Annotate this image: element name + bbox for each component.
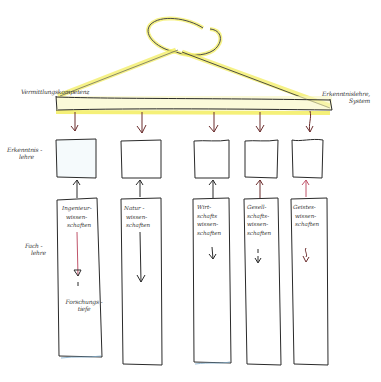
column-text-line: wissen-	[247, 220, 271, 229]
label-fachlehre-line1: Fach -	[25, 242, 46, 249]
arrows-up	[73, 180, 309, 198]
column-text-line: Wirt-	[197, 203, 221, 212]
label-erkenntnislehre-line2: lehre	[7, 153, 42, 160]
column-naturwissenschaften: Natur - wissen- schaften	[124, 204, 150, 230]
column-gesellschaftswissenschaften: Gesell- schafts- wissen- schaften	[247, 203, 271, 237]
column-text-line: schaften	[293, 220, 319, 229]
label-forschungstiefe-line2: tiefe	[62, 305, 106, 312]
label-forschungstiefe: Forschungs - tiefe	[62, 298, 106, 312]
label-erkenntnislehre-line1: Erkenntnis -	[7, 146, 42, 153]
column-text-line: wissen-	[293, 212, 319, 221]
diagram-drawing	[0, 0, 381, 382]
erkenntnislehre-boxes	[56, 139, 323, 178]
fachlehre-columns	[57, 198, 328, 365]
column-text-line: schaften	[197, 229, 221, 238]
column-text-line: Gesell-	[247, 203, 271, 212]
column-text-line: wissen-	[197, 220, 221, 229]
depth-arrows	[74, 232, 309, 286]
column-text-line: schaften	[62, 221, 92, 230]
label-fachlehre-line2: lehre	[25, 249, 46, 256]
column-text-line: Ingenieur-	[62, 204, 92, 213]
column-text-line: wissen-	[62, 213, 92, 222]
column-text-line: Geistes-	[293, 203, 319, 212]
column-text-line: wissen-	[124, 213, 150, 222]
label-vermittlungskompetenz: Vermittlungskompetenz	[21, 88, 89, 95]
label-fachlehre-row: Fach - lehre	[25, 242, 46, 256]
column-geisteswissenschaften: Geistes- wissen- schaften	[293, 203, 319, 229]
column-wirtschaftswissenschaften: Wirt- schafts wissen- schaften	[197, 203, 221, 237]
column-ingenieurwissenschaften: Ingenieur- wissen- schaften	[62, 204, 92, 230]
column-text-line: schaften	[124, 221, 150, 230]
hanger-bar	[56, 96, 332, 113]
label-forschungstiefe-line1: Forschungs -	[62, 298, 106, 305]
column-text-line: schafts	[197, 212, 221, 221]
label-erkenntnislehre-system: Erkenntnislehre, System	[310, 90, 370, 104]
hanger-diagram: Vermittlungskompetenz Erkenntnislehre, S…	[0, 0, 381, 382]
column-text-line: schafts-	[247, 212, 271, 221]
column-text-line: Natur -	[124, 204, 150, 213]
column-text-line: schaften	[247, 229, 271, 238]
label-erkenntnislehre-system-line1: Erkenntnislehre,	[310, 90, 370, 97]
label-erkenntnislehre-row: Erkenntnis - lehre	[7, 146, 42, 160]
hanger-hook-icon	[58, 18, 330, 108]
label-erkenntnislehre-system-line2: System	[310, 97, 370, 104]
